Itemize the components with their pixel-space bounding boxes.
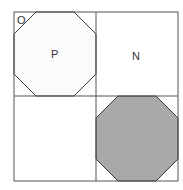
octagon-square-diagram: O P N	[0, 0, 183, 190]
label-p: P	[51, 48, 58, 60]
octagon-shaded	[96, 96, 178, 181]
label-n: N	[132, 50, 140, 62]
label-o: O	[17, 14, 26, 26]
